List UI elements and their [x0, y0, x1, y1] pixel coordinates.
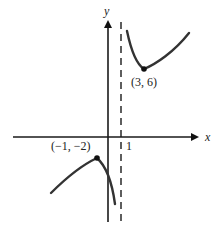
local-min-label: (3, 6): [131, 75, 157, 89]
tick-label-one: 1: [126, 139, 132, 153]
y-axis-label: y: [103, 4, 110, 18]
left-branch-curve: [51, 158, 115, 204]
local-min-point: [141, 66, 147, 72]
function-graph: y x 1 (3, 6) (−1, −2): [0, 0, 220, 233]
x-axis-label: x: [204, 130, 211, 144]
local-max-label: (−1, −2): [51, 139, 91, 153]
right-branch-curve: [127, 31, 189, 69]
local-max-point: [94, 155, 100, 161]
